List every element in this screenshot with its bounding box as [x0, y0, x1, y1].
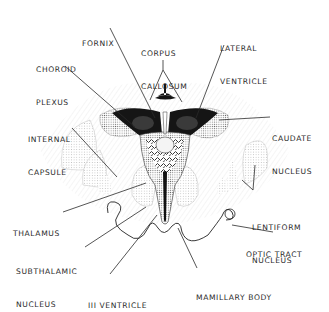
- label-corpus-callosum: CORPUS CALLOSUM: [141, 26, 187, 103]
- label-internal-capsule: INTERNAL CAPSULE: [28, 112, 71, 189]
- label-lateral-ventricle: LATERAL VENTRICLE: [220, 21, 268, 98]
- label-subthalamic-nucleus: SUBTHALAMIC NUCLEUS: [16, 244, 77, 312]
- label-third-ventricle: III VENTRICLE: [88, 278, 147, 312]
- choroid-plexus-left-lump: [132, 116, 154, 130]
- label-mamillary-body: MAMILLARY BODY: [196, 270, 272, 312]
- septum-pellucidum: [163, 112, 167, 134]
- fornix-columns: [156, 137, 174, 153]
- label-fornix: FORNIX: [82, 16, 114, 60]
- label-choroid-plexus: CHOROID PLEXUS: [36, 42, 77, 119]
- label-caudate-nucleus: CAUDATE NUCLEUS: [272, 111, 312, 188]
- choroid-plexus-right-lump: [176, 116, 198, 130]
- label-optic-tract: OPTIC TRACT: [246, 227, 302, 271]
